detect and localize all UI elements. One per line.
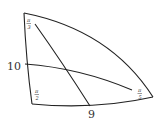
- angle-label-top: π 3: [26, 17, 31, 30]
- svg-text:2: 2: [35, 95, 39, 101]
- svg-text:π: π: [26, 17, 31, 23]
- angle-label-right: π 5: [137, 87, 142, 100]
- svg-text:3: 3: [28, 24, 31, 30]
- curved-triangle-diagram: π 3 π 2 π 5 10 9: [0, 0, 163, 124]
- side-label-left: 10: [7, 60, 21, 73]
- cevian-to-right: [25, 64, 132, 90]
- angle-label-bottom-left: π 2: [34, 88, 39, 101]
- side-label-bottom: 9: [88, 108, 95, 121]
- bottom-side: [32, 97, 153, 106]
- cevian-to-bottom: [35, 24, 90, 106]
- top-right-side: [24, 13, 153, 97]
- svg-text:π: π: [34, 88, 39, 94]
- svg-text:π: π: [137, 87, 142, 93]
- svg-text:5: 5: [139, 94, 142, 100]
